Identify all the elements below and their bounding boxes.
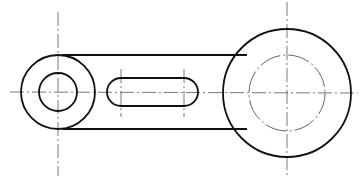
centerlines	[10, 2, 358, 176]
mechanical-drawing	[0, 0, 361, 186]
